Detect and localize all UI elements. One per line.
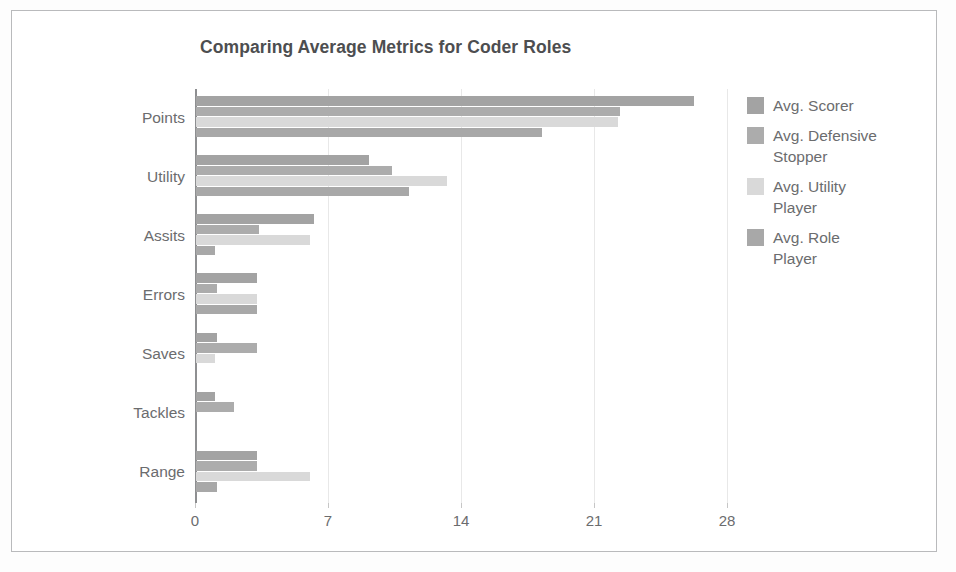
legend-item[interactable]: Avg. Defensive Stopper (747, 125, 932, 167)
tick-label: 0 (175, 512, 215, 529)
bar[interactable] (196, 214, 314, 224)
category-label: Saves (35, 345, 185, 363)
category-label: Assits (35, 227, 185, 245)
legend-swatch-icon (747, 178, 764, 195)
bar[interactable] (196, 117, 618, 127)
bar[interactable] (196, 96, 694, 106)
bar[interactable] (196, 187, 409, 197)
bar[interactable] (196, 392, 215, 402)
bar[interactable] (196, 461, 257, 471)
category-label: Points (35, 109, 185, 127)
bar-group (196, 326, 727, 385)
tick-mark (594, 503, 595, 508)
bar[interactable] (196, 354, 215, 364)
bar-group (196, 89, 727, 148)
category-label: Utility (35, 168, 185, 186)
chart-legend: Avg. ScorerAvg. Defensive StopperAvg. Ut… (747, 95, 932, 278)
category-label: Errors (35, 286, 185, 304)
bar[interactable] (196, 284, 217, 294)
bar[interactable] (196, 166, 392, 176)
bar-group (196, 207, 727, 266)
chart-frame: Comparing Average Metrics for Coder Role… (11, 10, 937, 552)
tick-label: 7 (308, 512, 348, 529)
bar[interactable] (196, 246, 215, 256)
value-axis: 07142128 (195, 503, 727, 537)
chart-title: Comparing Average Metrics for Coder Role… (200, 37, 571, 58)
tick-mark (195, 503, 196, 508)
legend-swatch-icon (747, 97, 764, 114)
bar[interactable] (196, 402, 234, 412)
legend-label: Avg. Role Player (773, 227, 881, 269)
legend-swatch-icon (747, 127, 764, 144)
tick-mark (328, 503, 329, 508)
category-label: Range (35, 463, 185, 481)
bar[interactable] (196, 294, 257, 304)
bar-group (196, 148, 727, 207)
bar[interactable] (196, 155, 369, 165)
tick-mark (727, 503, 728, 508)
tick-mark (461, 503, 462, 508)
bar[interactable] (196, 128, 542, 138)
bar[interactable] (196, 451, 257, 461)
legend-label: Avg. Scorer (773, 95, 854, 116)
tick-label: 14 (441, 512, 481, 529)
category-label: Tackles (35, 404, 185, 422)
bar[interactable] (196, 333, 217, 343)
gridline (727, 89, 728, 503)
tick-label: 21 (574, 512, 614, 529)
bar[interactable] (196, 225, 259, 235)
legend-label: Avg. Utility Player (773, 176, 881, 218)
bar[interactable] (196, 482, 217, 492)
bar-group (196, 444, 727, 503)
legend-swatch-icon (747, 229, 764, 246)
legend-label: Avg. Defensive Stopper (773, 125, 881, 167)
category-axis-labels: PointsUtilityAssitsErrorsSavesTacklesRan… (30, 89, 185, 503)
bar[interactable] (196, 176, 447, 186)
bar[interactable] (196, 235, 310, 245)
plot-area (195, 89, 727, 503)
legend-item[interactable]: Avg. Scorer (747, 95, 932, 116)
bar[interactable] (196, 472, 310, 482)
bar-group (196, 266, 727, 325)
tick-label: 28 (707, 512, 747, 529)
bar[interactable] (196, 273, 257, 283)
bar[interactable] (196, 343, 257, 353)
bar-group (196, 385, 727, 444)
chart-page: Comparing Average Metrics for Coder Role… (0, 0, 956, 572)
bar[interactable] (196, 107, 620, 117)
bar[interactable] (196, 305, 257, 315)
legend-item[interactable]: Avg. Utility Player (747, 176, 932, 218)
legend-item[interactable]: Avg. Role Player (747, 227, 932, 269)
